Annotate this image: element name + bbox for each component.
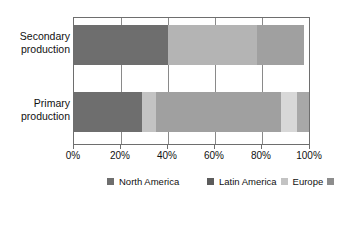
segment-primary-north-america <box>74 92 142 132</box>
legend-label-north-america: North America <box>119 176 179 187</box>
category-label-primary-line1: Primary <box>0 97 70 110</box>
legend-label-latin-america: Latin America <box>219 176 277 187</box>
legend-item-cis: CIS <box>327 175 338 187</box>
tick-label-40: 40% <box>147 150 187 162</box>
tick-mark-0 <box>73 145 74 149</box>
tick-label-80: 80% <box>241 150 281 162</box>
tick-mark-60 <box>214 145 215 149</box>
legend-item-north-america: North America <box>107 175 203 187</box>
legend-swatch-north-america <box>107 178 114 185</box>
bar-track-secondary <box>74 25 309 65</box>
segment-primary-oceania <box>281 92 297 132</box>
bar-track-primary <box>74 92 309 132</box>
segment-secondary-north-america <box>74 25 168 65</box>
category-label-primary-line2: production <box>0 110 70 123</box>
tick-mark-100 <box>309 145 310 149</box>
stacked-bar-chart: Secondary production Primary production <box>0 0 338 234</box>
bar-secondary-production <box>74 25 309 65</box>
plot-area <box>73 17 310 145</box>
legend-item-latin-america: Latin America <box>207 175 277 187</box>
segment-primary-europe <box>142 92 156 132</box>
segment-secondary-other-asia <box>168 25 257 65</box>
tick-mark-20 <box>120 145 121 149</box>
tick-label-60: 60% <box>194 150 234 162</box>
legend-label-europe: Europe <box>293 176 324 187</box>
tick-mark-40 <box>167 145 168 149</box>
category-label-secondary-line2: production <box>0 43 70 56</box>
tick-label-20: 20% <box>100 150 140 162</box>
category-label-secondary: Secondary production <box>0 30 70 55</box>
segment-primary-china <box>156 92 281 132</box>
tick-label-0: 0% <box>53 150 93 162</box>
segment-primary-africa <box>297 92 309 132</box>
chart-legend: North America Latin America Europe CIS O… <box>107 175 338 187</box>
legend-swatch-latin-america <box>207 178 214 185</box>
category-label-secondary-line1: Secondary <box>0 30 70 43</box>
tick-mark-80 <box>261 145 262 149</box>
category-label-primary: Primary production <box>0 97 70 122</box>
legend-swatch-europe <box>281 178 288 185</box>
legend-item-europe: Europe <box>281 175 324 187</box>
tick-label-100: 100% <box>289 150 329 162</box>
legend-swatch-cis <box>327 178 334 185</box>
segment-secondary-china <box>257 25 304 65</box>
bar-primary-production <box>74 92 309 132</box>
